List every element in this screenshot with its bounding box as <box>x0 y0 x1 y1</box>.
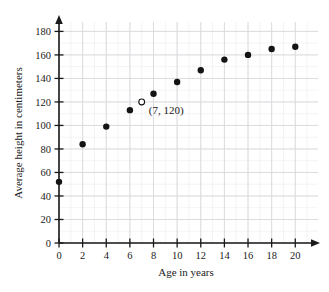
data-point <box>127 107 133 113</box>
y-tick-label: 20 <box>41 214 52 225</box>
x-axis-arrow-icon <box>311 239 320 247</box>
y-tick-label: 180 <box>35 26 51 37</box>
scatter-plot-figure: 020406080100120140160180 024681012141618… <box>0 0 329 292</box>
axes <box>55 15 320 247</box>
data-point-annotation: (7, 120) <box>149 104 184 117</box>
data-point <box>79 141 85 147</box>
y-tick-label: 140 <box>35 73 51 84</box>
data-point <box>150 91 156 97</box>
x-tick-label: 14 <box>219 250 230 261</box>
y-axis-arrow-icon <box>55 15 63 24</box>
x-tick-label: 2 <box>80 250 85 261</box>
chart-canvas: 020406080100120140160180 024681012141618… <box>0 0 329 292</box>
data-point <box>103 123 109 129</box>
x-tick-label: 4 <box>104 250 110 261</box>
y-tick-labels: 020406080100120140160180 <box>35 26 51 249</box>
x-tick-label: 10 <box>172 250 183 261</box>
tick-marks <box>55 31 296 247</box>
x-tick-label: 18 <box>266 250 277 261</box>
y-tick-label: 120 <box>35 97 51 108</box>
data-point <box>221 56 227 62</box>
data-point-open <box>139 99 145 105</box>
y-tick-label: 100 <box>35 120 51 131</box>
y-tick-label: 0 <box>46 238 51 249</box>
data-point <box>268 46 274 52</box>
x-tick-label: 8 <box>151 250 156 261</box>
y-axis-title: Average height in centimeters <box>12 67 24 198</box>
data-point <box>56 179 62 185</box>
data-point <box>174 79 180 85</box>
data-annotations: (7, 120) <box>149 104 184 117</box>
x-tick-label: 6 <box>127 250 132 261</box>
x-tick-label: 0 <box>56 250 61 261</box>
y-tick-label: 160 <box>35 50 51 61</box>
y-tick-label: 60 <box>41 167 52 178</box>
data-point <box>198 67 204 73</box>
grid-major-lines <box>59 22 318 243</box>
x-axis-title: Age in years <box>158 266 214 278</box>
y-tick-label: 80 <box>41 144 52 155</box>
y-tick-label: 40 <box>41 191 52 202</box>
x-tick-labels: 02468101214161820 <box>56 250 300 261</box>
data-point <box>245 52 251 58</box>
data-point <box>292 43 298 49</box>
x-tick-label: 12 <box>196 250 207 261</box>
x-tick-label: 16 <box>243 250 254 261</box>
x-tick-label: 20 <box>290 250 301 261</box>
